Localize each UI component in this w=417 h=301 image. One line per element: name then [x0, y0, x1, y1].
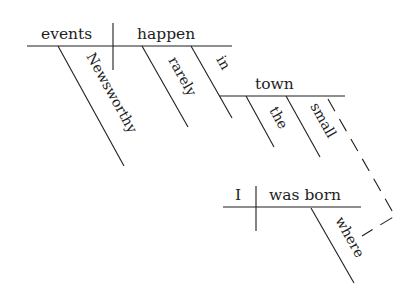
modifier-word-rarely: rarely — [165, 54, 200, 99]
subject-word: events — [41, 25, 92, 43]
sentence-diagram: events happen Newsworthy rarely in town … — [0, 0, 417, 301]
relative-clause-connector — [328, 99, 395, 236]
modifier-word-the: the — [266, 104, 291, 132]
modifier-line-the — [246, 96, 274, 147]
modifier-word-small: small — [307, 100, 340, 141]
modifier-word-newsworthy: Newsworthy — [83, 50, 140, 136]
verb-word: happen — [137, 25, 195, 43]
modifier-word-where: where — [332, 214, 367, 260]
relative-subject-word: I — [235, 186, 241, 204]
relative-verb-word: was born — [269, 186, 341, 204]
object-word-town: town — [255, 75, 294, 93]
preposition-word-in: in — [213, 53, 234, 73]
